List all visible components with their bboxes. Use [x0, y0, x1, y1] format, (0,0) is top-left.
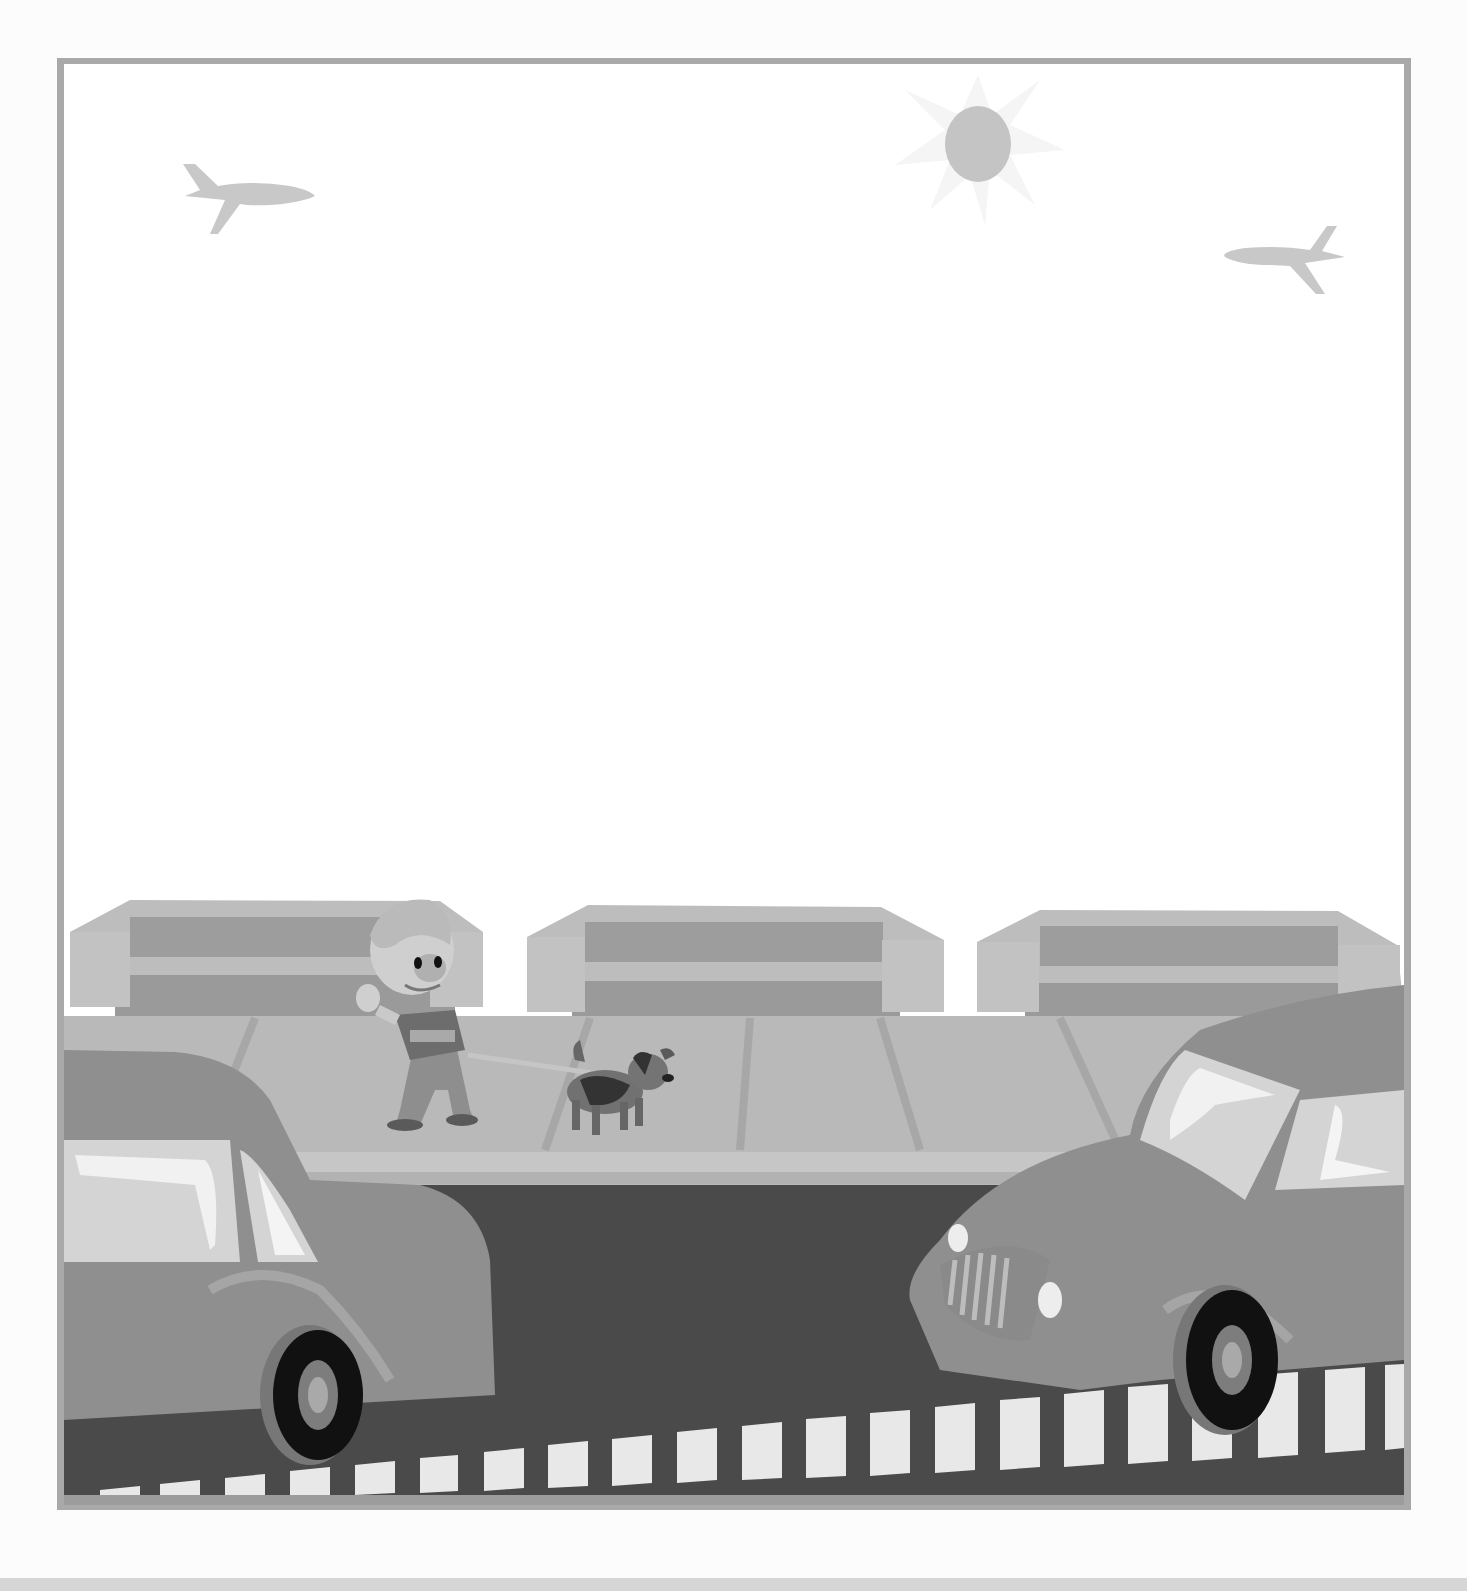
street-scene-illustration: [0, 0, 1467, 1591]
building-middle: [527, 905, 944, 1025]
